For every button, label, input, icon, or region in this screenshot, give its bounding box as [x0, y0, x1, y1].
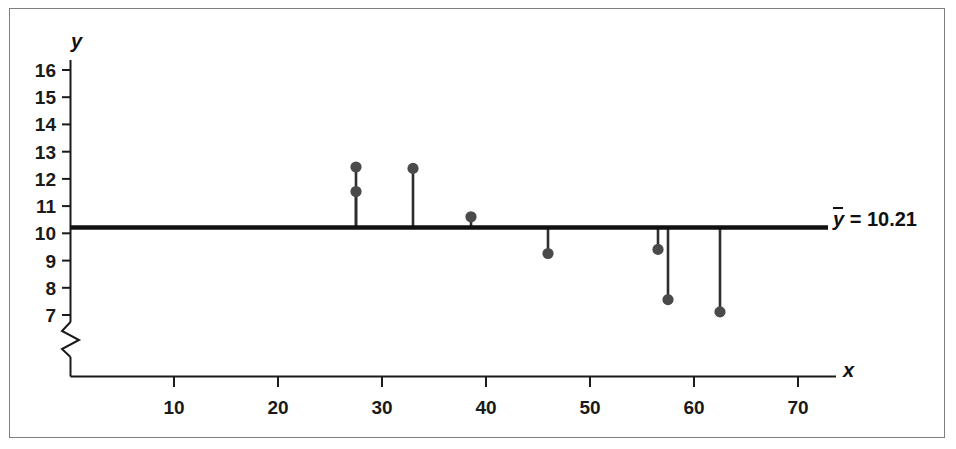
- mean-value: 10.21: [867, 208, 917, 230]
- deviation-plot: [0, 0, 956, 449]
- data-points: [350, 161, 725, 317]
- y-tick-label-12: 12: [14, 170, 56, 189]
- data-point: [350, 186, 361, 197]
- mean-equals-sign: =: [844, 208, 867, 230]
- x-tick-label-30: 30: [356, 398, 408, 417]
- data-point: [652, 244, 663, 255]
- data-point: [714, 306, 725, 317]
- data-point: [662, 294, 673, 305]
- y-tick-label-7: 7: [14, 306, 56, 325]
- deviation-stems: [356, 167, 720, 312]
- data-point: [350, 161, 361, 172]
- y-axis-break-icon: [62, 322, 79, 357]
- y-tick-label-8: 8: [14, 279, 56, 298]
- x-axis-title: x: [843, 360, 854, 380]
- data-point: [465, 211, 476, 222]
- y-tick-label-9: 9: [14, 252, 56, 271]
- x-tick-label-10: 10: [148, 398, 200, 417]
- y-tick-label-13: 13: [14, 143, 56, 162]
- y-tick-label-10: 10: [14, 224, 56, 243]
- x-tick-label-60: 60: [668, 398, 720, 417]
- y-bar-symbol: y: [833, 208, 844, 229]
- x-tick-label-70: 70: [772, 398, 824, 417]
- y-tick-label-16: 16: [14, 61, 56, 80]
- x-tick-label-50: 50: [564, 398, 616, 417]
- y-tick-label-15: 15: [14, 88, 56, 107]
- mean-line-label: y = 10.21: [833, 208, 917, 229]
- y-axis-ticks: [62, 70, 71, 315]
- y-tick-label-14: 14: [14, 115, 56, 134]
- data-point: [542, 248, 553, 259]
- x-axis-ticks: [174, 377, 798, 388]
- x-tick-label-20: 20: [252, 398, 304, 417]
- data-point: [407, 163, 418, 174]
- y-axis-title: y: [71, 31, 82, 51]
- x-tick-label-40: 40: [460, 398, 512, 417]
- y-tick-label-11: 11: [14, 197, 56, 216]
- figure-root: y x 16 15 14 13 12 11 10 9 8 7 10 20 30 …: [0, 0, 956, 449]
